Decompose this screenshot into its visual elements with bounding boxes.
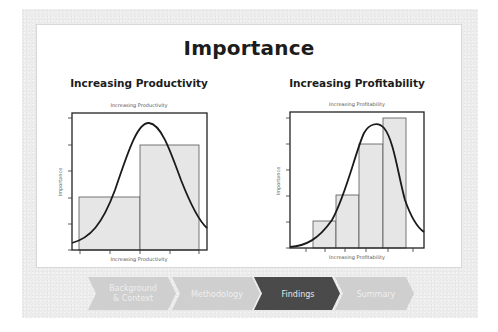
breadcrumb-label: Methodology: [191, 290, 243, 299]
breadcrumb-label: Summary: [357, 290, 396, 299]
breadcrumb: Background & Context Methodology Finding…: [0, 0, 498, 332]
breadcrumb-label: Findings: [282, 290, 315, 299]
breadcrumb-step-methodology[interactable]: Methodology: [172, 277, 260, 310]
breadcrumb-step-summary[interactable]: Summary: [335, 277, 414, 310]
breadcrumb-label: Background: [109, 284, 157, 293]
breadcrumb-step-findings[interactable]: Findings: [254, 277, 340, 310]
breadcrumb-step-background-context[interactable]: Background & Context: [88, 277, 176, 310]
breadcrumb-label: & Context: [113, 294, 153, 303]
